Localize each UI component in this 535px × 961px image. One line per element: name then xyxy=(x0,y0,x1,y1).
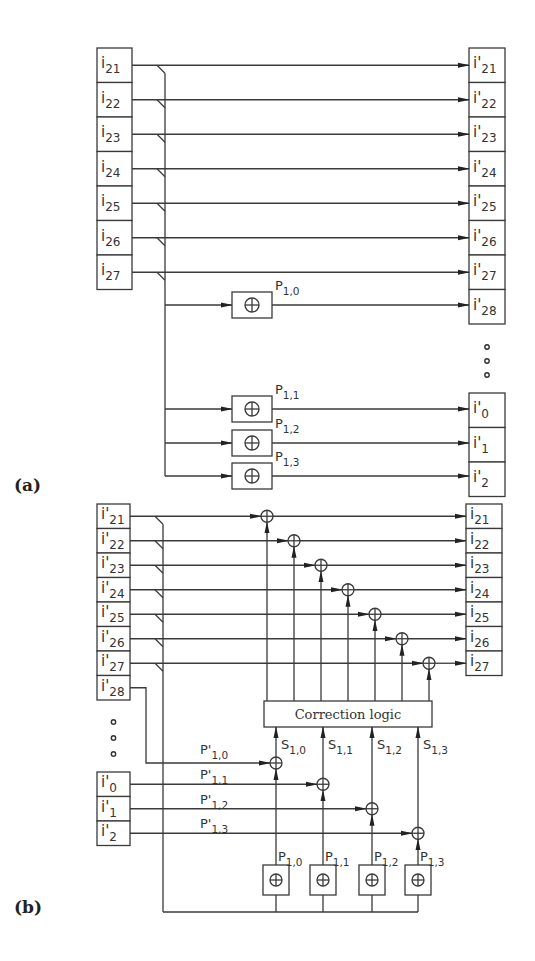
ellipsis-dots-icon xyxy=(485,345,489,377)
output-register-21: i'21 xyxy=(469,48,505,83)
received-register-27: i'27 xyxy=(97,651,130,676)
parity-label-1,1: P1,1 xyxy=(275,382,300,401)
corrected-register-22: i22 xyxy=(466,529,502,554)
panel-label-b: (b) xyxy=(14,897,42,917)
received-register-22: i'22 xyxy=(97,529,130,554)
syndrome-label-1,1: S1,1 xyxy=(328,737,353,756)
encoder-decoder-diagram: i21i22i23i24i25i26i27i'21i'22i'23i'24i'2… xyxy=(0,0,535,961)
output-register-0: i'0 xyxy=(469,393,505,428)
bus-tap xyxy=(155,590,163,598)
corrected-register-21: i21 xyxy=(466,504,502,529)
xor-node-icon xyxy=(412,827,424,839)
output-register-23: i'23 xyxy=(469,117,505,152)
input-register-23: i23 xyxy=(97,117,132,152)
xor-node-icon xyxy=(245,298,259,312)
input-register-27: i27 xyxy=(97,255,132,290)
bus-tap xyxy=(155,639,163,647)
output-register-24: i'24 xyxy=(469,152,505,187)
received-register-0: i'0 xyxy=(97,772,130,797)
received-register-25: i'25 xyxy=(97,602,130,627)
output-register-1: i'1 xyxy=(469,428,505,463)
received-register-21: i'21 xyxy=(97,504,130,529)
parity-label-1,2: P1,2 xyxy=(275,416,300,435)
xor-node-icon xyxy=(396,633,408,645)
xor-node-icon xyxy=(315,559,327,571)
received-register-26: i'26 xyxy=(97,627,130,652)
xor-node-icon xyxy=(412,874,424,886)
xor-node-icon xyxy=(245,469,259,483)
bus-tap xyxy=(157,65,165,73)
parity-xor-gate-2 xyxy=(232,430,272,456)
syndrome-label-1,3: S1,3 xyxy=(423,737,448,756)
input-register-22: i22 xyxy=(97,83,132,118)
recomputed-parity-gate-2 xyxy=(359,865,385,895)
correction-logic-label: Correction logic xyxy=(295,707,402,722)
received-parity-label-1,1: P'1,1 xyxy=(200,767,228,786)
xor-node-icon xyxy=(317,874,329,886)
xor-node-icon xyxy=(423,657,435,669)
panel-label-a: (a) xyxy=(14,475,41,495)
bus-tap xyxy=(157,272,165,280)
corrected-register-24: i24 xyxy=(466,578,502,603)
corrected-register-25: i25 xyxy=(466,602,502,627)
syndrome-label-1,0: S1,0 xyxy=(281,737,306,756)
input-register-25: i25 xyxy=(97,186,132,221)
received-register-1: i'1 xyxy=(97,797,130,822)
output-register-2: i'2 xyxy=(469,462,505,497)
output-register-26: i'26 xyxy=(469,221,505,256)
bus-tap xyxy=(155,663,163,671)
input-register-24: i24 xyxy=(97,152,132,187)
parity-label-1,0: P1,0 xyxy=(275,278,300,297)
ellipsis-dots-icon xyxy=(111,720,115,756)
output-register-27: i'27 xyxy=(469,255,505,290)
input-register-26: i26 xyxy=(97,221,132,256)
input-register-21: i21 xyxy=(97,48,132,83)
bus-tap xyxy=(157,134,165,142)
corrected-register-23: i23 xyxy=(466,553,502,578)
recomputed-parity-gate-1 xyxy=(310,865,336,895)
xor-node-icon xyxy=(245,436,259,450)
corrected-register-27: i27 xyxy=(466,651,502,676)
output-register-22: i'22 xyxy=(469,83,505,118)
panel-b-decoder: i'21i'22i'23i'24i'25i'26i'27i'28i'0i'1i'… xyxy=(14,504,502,917)
xor-node-icon xyxy=(261,510,273,522)
received-register-2: i'2 xyxy=(97,821,130,846)
parity-xor-gate-1 xyxy=(232,396,272,422)
correction-logic-block: Correction logic xyxy=(264,701,432,727)
bus-tap xyxy=(155,565,163,573)
panel-a-encoder: i21i22i23i24i25i26i27i'21i'22i'23i'24i'2… xyxy=(14,48,505,497)
syndrome-label-1,2: S1,2 xyxy=(377,737,402,756)
xor-node-icon xyxy=(369,608,381,620)
received-parity-label-1,0: P'1,0 xyxy=(200,742,228,761)
bus-tap xyxy=(157,169,165,177)
output-register-25: i'25 xyxy=(469,186,505,221)
recomputed-parity-gate-3 xyxy=(405,865,431,895)
received-register-23: i'23 xyxy=(97,553,130,578)
received-register-28: i'28 xyxy=(97,676,130,701)
xor-node-icon xyxy=(366,874,378,886)
bus-tap xyxy=(157,203,165,211)
bus-tap xyxy=(155,614,163,622)
xor-node-icon xyxy=(317,778,329,790)
parity-xor-gate-3 xyxy=(232,463,272,489)
bus-tap xyxy=(157,238,165,246)
received-parity-label-1,3: P'1,3 xyxy=(200,816,228,835)
corrected-register-26: i26 xyxy=(466,627,502,652)
output-register-28: i'28 xyxy=(469,290,505,325)
parity-label-1,3: P1,3 xyxy=(275,449,300,468)
xor-node-icon xyxy=(288,535,300,547)
xor-node-icon xyxy=(245,402,259,416)
parity-xor-gate-0 xyxy=(232,292,272,318)
xor-node-icon xyxy=(270,757,282,769)
xor-node-icon xyxy=(342,584,354,596)
xor-node-icon xyxy=(366,803,378,815)
bus-tap xyxy=(155,516,163,524)
received-register-24: i'24 xyxy=(97,578,130,603)
recomputed-parity-gate-0 xyxy=(263,865,289,895)
bus-tap xyxy=(157,100,165,108)
bus-tap xyxy=(155,541,163,549)
xor-node-icon xyxy=(270,874,282,886)
